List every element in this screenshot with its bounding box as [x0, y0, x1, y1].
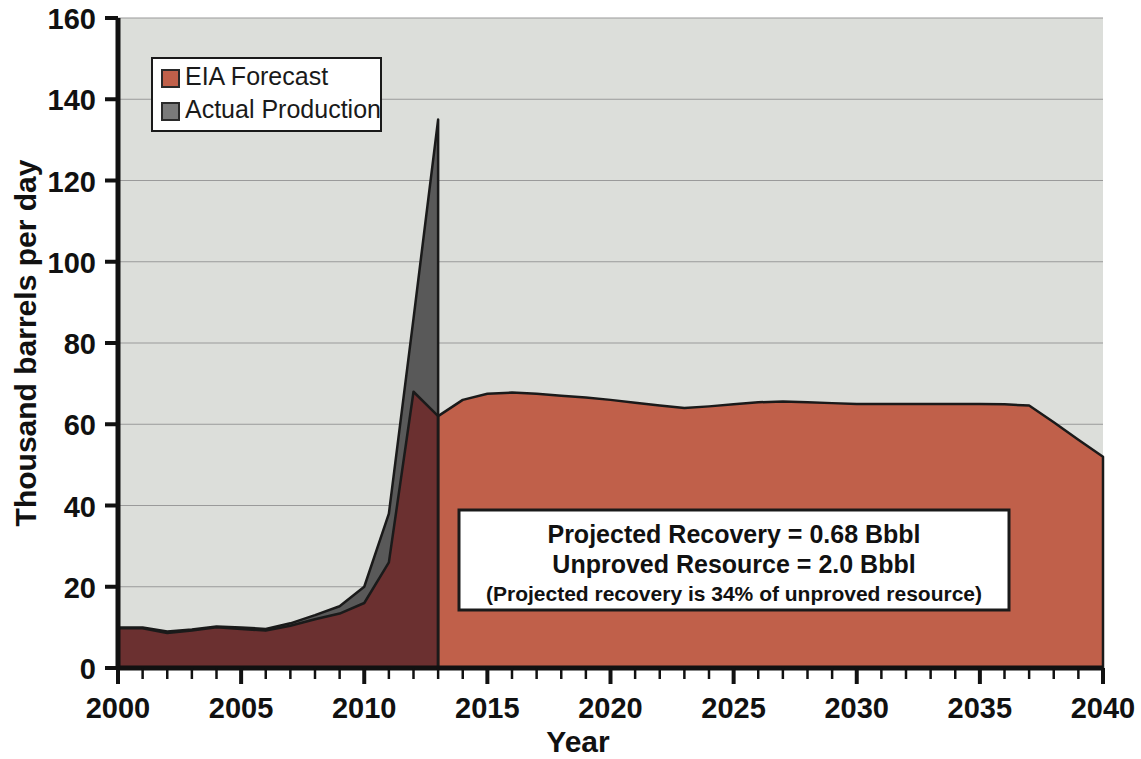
x-axis-tick-label: 2025: [701, 692, 766, 724]
y-axis-tick-label: 120: [48, 166, 96, 198]
y-axis-tick-label: 20: [64, 572, 96, 604]
y-axis-tick-label: 140: [48, 84, 96, 116]
y-axis-tick-label: 60: [64, 409, 96, 441]
annotation-line-2: Unproved Resource = 2.0 Bbbl: [552, 550, 915, 578]
x-axis-tick-label: 2005: [209, 692, 274, 724]
x-axis-tick-label: 2010: [332, 692, 397, 724]
annotation-line-1: Projected Recovery = 0.68 Bbbl: [547, 520, 920, 548]
legend-swatch-actual-production: [162, 103, 179, 120]
annotation-line-3: (Projected recovery is 34% of unproved r…: [486, 582, 982, 605]
x-axis-tick-label: 2015: [455, 692, 520, 724]
legend-label-actual-production: Actual Production: [185, 95, 381, 123]
area-chart: 020406080100120140160 200020052010201520…: [0, 0, 1141, 759]
y-axis-title: Thousand barrels per day: [9, 159, 42, 526]
y-axis-tick-label: 80: [64, 328, 96, 360]
x-axis-tick-label: 2020: [578, 692, 643, 724]
y-axis-tick-label: 160: [48, 3, 96, 35]
legend: EIA Forecast Actual Production: [152, 58, 381, 131]
x-axis-tick-label: 2030: [824, 692, 889, 724]
y-axis-tick-label: 40: [64, 491, 96, 523]
legend-label-eia-forecast: EIA Forecast: [185, 62, 328, 90]
annotation-box: Projected Recovery = 0.68 Bbbl Unproved …: [459, 510, 1009, 610]
x-axis-tick-label: 2040: [1071, 692, 1136, 724]
x-axis-tick-label: 2000: [86, 692, 151, 724]
legend-swatch-eia-forecast: [162, 70, 179, 87]
y-axis-tick-label: 100: [48, 247, 96, 279]
y-axis-tick-label: 0: [80, 653, 96, 685]
x-axis-title: Year: [546, 725, 610, 758]
x-axis-tick-labels: 200020052010201520202025203020352040: [86, 692, 1136, 724]
x-axis-tick-label: 2035: [948, 692, 1013, 724]
chart-container: 020406080100120140160 200020052010201520…: [0, 0, 1141, 759]
